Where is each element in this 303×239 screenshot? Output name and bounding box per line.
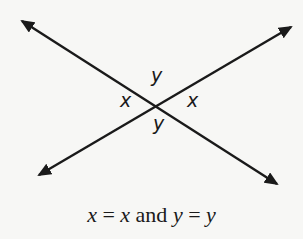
caption-var-4: y <box>206 202 216 227</box>
line-1 <box>22 21 277 184</box>
line-2 <box>39 27 291 175</box>
caption-conjunction: and <box>130 202 173 227</box>
caption-var-2: x <box>120 202 130 227</box>
caption-var-3: y <box>173 202 183 227</box>
caption-equals-1: = <box>97 202 120 227</box>
angle-label-left: x <box>120 91 131 110</box>
angle-label-bottom: y <box>153 114 164 133</box>
caption: x = x and y = y <box>0 202 303 228</box>
angle-label-right: x <box>187 91 198 110</box>
angle-label-top: y <box>151 66 162 85</box>
caption-var-1: x <box>87 202 97 227</box>
caption-equals-2: = <box>183 202 206 227</box>
